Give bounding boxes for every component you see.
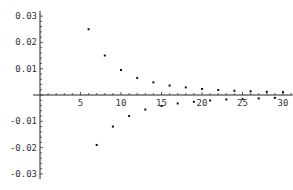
data-point [201,88,203,90]
data-point [217,89,219,91]
data-point [152,81,154,83]
data-point [282,91,284,93]
data-point [177,102,179,104]
data-point [185,86,187,88]
y-tick-label: 0.03 [15,11,37,21]
data-point [96,144,98,146]
data-point [104,55,106,57]
data-point [161,105,163,107]
data-point [233,90,235,92]
data-point [128,115,130,117]
data-point [193,101,195,103]
x-tick-label: 5 [78,98,83,108]
y-tick-label: -0.02 [10,143,37,153]
data-point [225,98,227,100]
y-tick-label: 0.02 [15,37,37,47]
y-tick-label: -0.03 [10,169,37,179]
data-point [209,100,211,102]
x-tick-label: 20 [197,98,208,108]
data-point [258,97,260,99]
y-tick-label: 0.01 [15,64,37,74]
x-tick-label: 30 [278,98,289,108]
data-point [136,77,138,79]
y-tick-label: -0.01 [10,116,37,126]
scatter-chart: 510152025300.030.020.01-0.01-0.02-0.03 [0,0,293,190]
data-point [88,28,90,30]
data-point [169,85,171,87]
x-tick-label: 10 [116,98,127,108]
data-point [242,98,244,100]
data-point [250,90,252,92]
data-point [266,91,268,93]
data-point [274,97,276,99]
data-point [144,108,146,110]
data-point [112,126,114,128]
data-point [120,69,122,71]
